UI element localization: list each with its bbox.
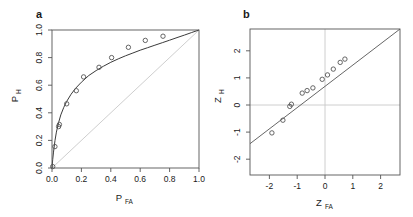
x-axis-ticks-a xyxy=(52,168,199,172)
x-tick-label: 0.0 xyxy=(46,174,58,184)
x-tick-label: 2 xyxy=(378,181,383,191)
y-axis-label-a: P H xyxy=(9,89,22,102)
x-tick-label: 1.0 xyxy=(193,174,205,184)
panel-b: b xyxy=(206,0,413,217)
y-tick-label: 0.0 xyxy=(34,162,44,174)
y-axis-ticks-a xyxy=(48,30,52,168)
x-axis-label-sub: FA xyxy=(125,198,134,205)
x-tick-label: 0.4 xyxy=(105,174,117,184)
x-axis-label-sub: FA xyxy=(325,203,334,210)
chance-diagonal-line xyxy=(52,30,199,168)
data-point xyxy=(338,60,342,64)
y-axis-label-sub: H xyxy=(15,89,22,94)
x-tick-label: 0.6 xyxy=(134,174,146,184)
x-tick-label: 0 xyxy=(323,181,328,191)
y-tick-label: -1 xyxy=(232,128,242,136)
data-point xyxy=(109,55,113,59)
x-tick-label: 1 xyxy=(350,181,355,191)
data-point xyxy=(270,131,274,135)
panel-b-plot: -2 -1 0 1 2 -2 -1 0 1 2 xyxy=(206,0,413,217)
x-tick-label: -2 xyxy=(266,181,274,191)
x-axis-ticks-b xyxy=(269,175,380,179)
y-axis-label-b: Z H xyxy=(212,89,225,103)
figure-roc-zroc: a xyxy=(0,0,413,217)
y-tick-label: 1 xyxy=(232,75,242,80)
data-point xyxy=(331,67,335,71)
roc-data-points xyxy=(51,34,166,169)
y-tick-label: 0.6 xyxy=(34,79,44,91)
zroc-data-points xyxy=(270,57,347,135)
data-point xyxy=(305,88,309,92)
data-point xyxy=(161,34,165,38)
x-tick-label: -1 xyxy=(293,181,301,191)
panel-a: a xyxy=(0,0,207,217)
data-point xyxy=(343,57,347,61)
panel-a-plot: 0.0 0.2 0.4 0.6 0.8 1.0 0.0 0.2 0.4 0. xyxy=(0,0,207,217)
panel-b-letter: b xyxy=(243,9,250,20)
x-axis-label-main: Z xyxy=(316,197,322,208)
y-tick-label: 0.2 xyxy=(34,134,44,146)
data-point xyxy=(81,75,85,79)
data-point xyxy=(300,91,304,95)
y-axis-label-main: P xyxy=(9,96,20,102)
x-axis-ticklabels-a: 0.0 0.2 0.4 0.6 0.8 1.0 xyxy=(46,174,205,184)
panel-a-letter: a xyxy=(36,9,42,20)
data-point xyxy=(126,45,130,49)
y-tick-label: 0.8 xyxy=(34,51,44,63)
y-tick-label: -2 xyxy=(232,155,242,163)
x-axis-label-a: P FA xyxy=(116,192,134,205)
x-tick-label: 0.2 xyxy=(75,174,87,184)
data-point xyxy=(320,77,324,81)
y-axis-label-main: Z xyxy=(212,97,223,103)
data-point xyxy=(143,38,147,42)
x-axis-label-b: Z FA xyxy=(316,197,334,210)
x-axis-ticklabels-b: -2 -1 0 1 2 xyxy=(266,181,384,191)
y-axis-ticklabels-b: -2 -1 0 1 2 xyxy=(232,48,242,163)
y-axis-ticklabels-a: 0.0 0.2 0.4 0.6 0.8 1.0 xyxy=(34,24,44,174)
y-axis-label-sub: H xyxy=(218,89,225,94)
y-tick-label: 0.4 xyxy=(34,107,44,119)
data-point xyxy=(325,73,329,77)
y-axis-ticks-b xyxy=(246,51,250,159)
data-point xyxy=(311,86,315,90)
y-tick-label: 1.0 xyxy=(34,24,44,36)
y-tick-label: 0 xyxy=(232,102,242,107)
x-axis-label-main: P xyxy=(116,192,122,203)
y-tick-label: 2 xyxy=(232,48,242,53)
x-tick-label: 0.8 xyxy=(164,174,176,184)
data-point xyxy=(74,89,78,93)
